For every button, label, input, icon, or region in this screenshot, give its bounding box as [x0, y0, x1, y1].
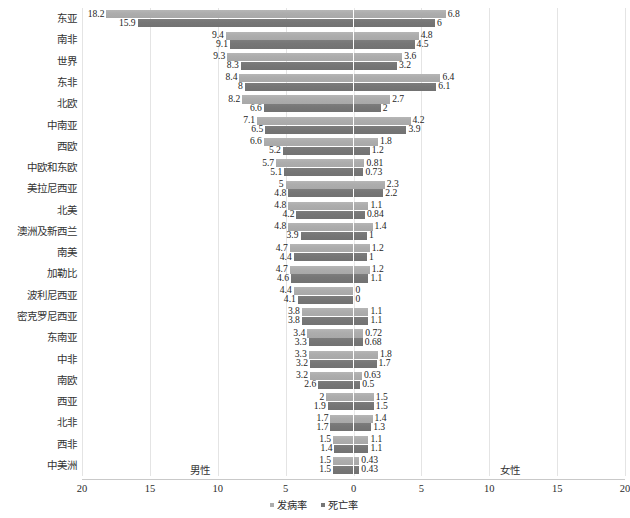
bar-male-mortality [138, 19, 354, 27]
x-axis-line [82, 479, 625, 480]
legend-label: 死亡率 [328, 497, 358, 512]
chart-row: 北欧8.26.62.72 [82, 93, 625, 115]
bar-male-mortality [245, 83, 354, 91]
legend-label: 发病率 [277, 497, 307, 512]
bar-female-mortality [354, 126, 407, 134]
value-label: 4.8 [274, 221, 286, 231]
category-label: 南欧 [57, 376, 77, 387]
value-label: 1 [369, 230, 374, 240]
bar-female-incidence [354, 351, 378, 359]
value-label: 6.6 [250, 103, 262, 113]
value-label: 0 [356, 294, 361, 304]
bar-male-incidence [326, 393, 353, 401]
category-label: 西欧 [57, 142, 77, 153]
category-label: 南非 [57, 35, 77, 46]
value-label: 1.1 [370, 443, 382, 453]
bar-female-mortality [354, 168, 364, 176]
category-label: 北美 [57, 205, 77, 216]
x-tick-label: 15 [552, 483, 563, 494]
value-label: 3.2 [399, 60, 411, 70]
value-label: 1.7 [379, 358, 391, 368]
bar-female-mortality [354, 317, 369, 325]
bar-male-incidence [294, 287, 354, 295]
value-label: 4.6 [277, 273, 289, 283]
chart-row: 中非3.33.21.81.7 [82, 348, 625, 370]
value-label: 4.8 [274, 188, 286, 198]
bar-male-incidence [226, 32, 354, 40]
bar-female-mortality [354, 83, 437, 91]
value-label: 3.3 [295, 337, 307, 347]
value-label: 3.9 [287, 230, 299, 240]
value-label: 1.4 [375, 221, 387, 231]
bar-female-incidence [354, 393, 374, 401]
bar-male-mortality [284, 168, 353, 176]
bar-male-incidence [302, 308, 354, 316]
bar-female-mortality [354, 189, 384, 197]
chart-row: 东非8.486.46.1 [82, 72, 625, 94]
legend-swatch-icon [270, 503, 274, 507]
bar-female-incidence [354, 244, 370, 252]
chart-row: 中欧和东欧5.75.10.810.73 [82, 157, 625, 179]
bar-male-mortality [330, 423, 353, 431]
bar-male-mortality [288, 189, 353, 197]
value-label: 3.9 [408, 124, 420, 134]
gridline [625, 8, 626, 476]
bar-male-incidence [227, 53, 353, 61]
value-label: 2.2 [385, 188, 397, 198]
bar-female-mortality [354, 253, 368, 261]
bar-male-mortality [333, 466, 353, 474]
x-tick-label: 5 [419, 483, 424, 494]
chart-row: 南美4.74.41.21 [82, 242, 625, 264]
bar-female-mortality [354, 338, 363, 346]
value-label: 2.7 [392, 94, 404, 104]
category-label: 西非 [57, 439, 77, 450]
value-label: 8.2 [228, 94, 240, 104]
legend-swatch-icon [321, 503, 325, 507]
category-label: 中非 [57, 354, 77, 365]
chart-row: 加勒比4.74.61.21.1 [82, 263, 625, 285]
category-label: 密克罗尼西亚 [17, 312, 77, 323]
value-label: 1.1 [370, 273, 382, 283]
bar-male-incidence [290, 244, 354, 252]
chart-row: 北美4.84.21.10.84 [82, 199, 625, 221]
x-tick-label: 5 [283, 483, 288, 494]
bar-female-incidence [354, 329, 364, 337]
chart-row: 东亚18.215.96.86 [82, 8, 625, 30]
category-label: 东非 [57, 78, 77, 89]
bar-female-incidence [354, 266, 370, 274]
bar-female-incidence [354, 32, 419, 40]
category-label: 东亚 [57, 14, 77, 25]
bar-male-incidence [333, 436, 353, 444]
bar-female-incidence [354, 372, 363, 380]
right-side-caption: 女性 [500, 462, 520, 477]
chart-row: 西亚21.91.51.5 [82, 391, 625, 413]
bar-male-incidence [310, 372, 353, 380]
x-tick-label: 0 [351, 483, 356, 494]
left-side-caption: 男性 [190, 462, 210, 477]
legend-item[interactable]: 发病率 [270, 497, 307, 512]
bar-male-incidence [106, 10, 353, 18]
bar-female-incidence [354, 159, 365, 167]
bar-female-mortality [354, 445, 369, 453]
bar-male-incidence [288, 202, 353, 210]
value-label: 1 [369, 252, 374, 262]
bar-male-mortality [296, 211, 353, 219]
bar-female-incidence [354, 10, 446, 18]
value-label: 6.5 [251, 124, 263, 134]
legend-item[interactable]: 死亡率 [321, 497, 358, 512]
value-label: 0.68 [365, 337, 382, 347]
chart-row: 西欧6.65.21.81.2 [82, 136, 625, 158]
x-tick-label: 15 [145, 483, 156, 494]
value-label: 6.1 [438, 81, 450, 91]
bar-female-incidence [354, 436, 369, 444]
bar-male-incidence [330, 415, 353, 423]
bar-female-incidence [354, 117, 411, 125]
value-label: 6.6 [250, 136, 262, 146]
bar-male-mortality [230, 40, 354, 48]
bar-male-incidence [286, 181, 354, 189]
chart-row: 密克罗尼西亚3.83.81.11.1 [82, 306, 625, 328]
bar-female-incidence [354, 457, 360, 465]
chart-row: 澳洲及新西兰4.83.91.41 [82, 221, 625, 243]
value-label: 5.2 [269, 145, 281, 155]
value-label: 8.3 [227, 60, 239, 70]
